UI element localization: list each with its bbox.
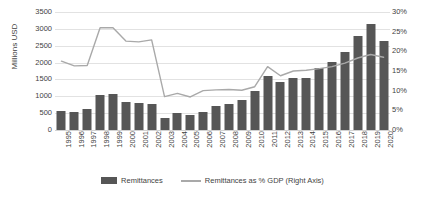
y-tick-label-left: 0 [48,126,52,134]
chart-legend: Remittances Remittances as % GDP (Right … [0,176,425,185]
x-tick-label: 1999 [116,131,124,148]
y-axis-ticks-right: 0%5%10%15%20%25%30% [392,12,422,130]
y-tick-label-left: 2000 [35,59,52,67]
line-swatch-icon [181,180,201,182]
x-tick-label: 2000 [129,131,137,148]
y-tick-label-right: 15% [392,67,407,75]
x-tick-label: 2010 [258,131,266,148]
y-tick-label-right: 30% [392,8,407,16]
y-tick-label-left: 1500 [35,75,52,83]
y-tick-label-left: 500 [39,109,52,117]
y-tick-label-left: 2500 [35,42,52,50]
y-tick-label-right: 5% [392,106,403,114]
x-tick-label: 2016 [335,131,343,148]
plot-area [55,12,390,130]
x-tick-label: 2003 [168,131,176,148]
x-tick-label: 2008 [232,131,240,148]
x-tick-label: 2019 [374,131,382,148]
y-tick-label-left: 3000 [35,25,52,33]
x-tick-label: 1997 [90,131,98,148]
y-tick-label-right: 20% [392,47,407,55]
y-axis-ticks-left: 0500100015002000250030003500 [24,12,52,130]
x-tick-label: 2020 [387,131,395,148]
x-tick-label: 2011 [271,131,279,147]
line-series-remittances-pct-gdp [55,12,390,130]
y-axis-title-left: Millions USD [10,11,19,83]
x-tick-label: 2012 [284,131,292,148]
x-tick-label: 1996 [78,131,86,148]
x-tick-label: 1995 [65,131,73,148]
y-tick-label-right: 10% [392,87,407,95]
x-tick-label: 2002 [155,131,163,148]
x-tick-label: 2005 [193,131,201,148]
x-tick-label: 1998 [103,131,111,148]
x-tick-label: 2017 [348,131,356,148]
x-axis-labels: 1995199619971998199920002001200220032004… [55,131,390,165]
x-tick-label: 2018 [361,131,369,148]
x-tick-label: 2015 [322,131,330,148]
x-tick-label: 2013 [297,131,305,148]
y-tick-label-left: 1000 [35,92,52,100]
legend-item-remittances: Remittances [101,176,163,185]
y-tick-label-right: 25% [392,28,407,36]
x-tick-label: 2006 [206,131,214,148]
x-tick-label: 2001 [142,131,150,148]
legend-item-remittances-pct-gdp: Remittances as % GDP (Right Axis) [181,176,324,185]
x-tick-label: 2009 [245,131,253,148]
x-tick-label: 2004 [181,131,189,148]
bar-swatch-icon [101,177,117,184]
x-tick-label: 2007 [219,131,227,148]
remittances-chart: Millions USD 050010001500200025003000350… [0,0,425,199]
legend-label: Remittances [121,176,163,185]
legend-label: Remittances as % GDP (Right Axis) [205,176,324,185]
y-tick-label-left: 3500 [35,8,52,16]
x-tick-label: 2014 [309,131,317,148]
